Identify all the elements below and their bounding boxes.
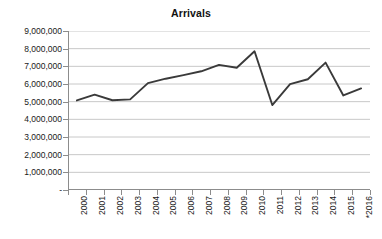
x-axis-tick-label: 2009	[240, 196, 249, 215]
x-axis-tick-label: 2008	[223, 196, 232, 215]
x-axis-tick	[139, 190, 140, 195]
y-axis-tick-label: 9,000,000	[0, 27, 62, 36]
x-axis-tick-label-text: *2016	[365, 196, 374, 218]
x-axis-tick-label-text: 2005	[169, 196, 178, 215]
x-axis-tick	[192, 190, 193, 195]
x-axis-tick	[263, 190, 264, 195]
x-axis-tick	[352, 190, 353, 195]
y-axis-tick-label: 6,000,000	[0, 80, 62, 89]
plot-svg	[68, 31, 370, 190]
y-axis-tick-label: 3,000,000	[0, 133, 62, 142]
x-axis-tick-label: 2011	[276, 196, 285, 214]
x-axis-tick-labels: 2000200120022003200420052006200720082009…	[68, 196, 370, 239]
y-axis-tick-label: 5,000,000	[0, 97, 62, 106]
x-axis-tick-label: 2007	[205, 196, 214, 215]
x-axis-tick-label: 2004	[152, 196, 161, 215]
arrivals-data-line	[77, 51, 361, 105]
x-axis-tick-label-text: 2004	[152, 196, 161, 215]
x-axis-tick-label-text: 2002	[116, 196, 125, 215]
x-axis-tick-label-text: 2007	[205, 196, 214, 215]
y-axis-tick-label: -	[0, 186, 62, 195]
x-axis-tick-label-text: 2013	[311, 196, 320, 215]
x-axis-tick	[86, 190, 87, 195]
x-axis-tick-label-text: 2006	[187, 196, 196, 215]
y-axis-tick-label: 1,000,000	[0, 168, 62, 177]
y-axis-tick-label: 4,000,000	[0, 115, 62, 124]
x-axis-tick-label-text: 2015	[347, 196, 356, 215]
x-axis-tick-label: 2006	[187, 196, 196, 215]
x-axis-tick-label: 2005	[169, 196, 178, 215]
x-axis-tick-label: 2001	[98, 196, 107, 215]
x-axis-tick-label: 2014	[329, 196, 338, 215]
x-axis-tick-label-text: 2000	[80, 196, 89, 215]
x-axis-tick-label-text: 2011	[276, 196, 285, 214]
x-axis-tick	[281, 190, 282, 195]
x-axis-tick-label-text: 2003	[134, 196, 143, 215]
y-axis-tick-label: 7,000,000	[0, 62, 62, 71]
x-axis-tick	[370, 190, 371, 195]
x-axis-tick-label-text: 2008	[223, 196, 232, 215]
x-axis-tick-label: 2010	[258, 196, 267, 215]
x-axis-tick-label-text: 2012	[294, 196, 303, 215]
x-axis-tick	[334, 190, 335, 195]
x-axis-tick	[68, 190, 69, 195]
y-axis-tick-label: 2,000,000	[0, 150, 62, 159]
x-axis-tick-label: 2013	[311, 196, 320, 215]
x-axis-tick	[175, 190, 176, 195]
x-axis-tick	[157, 190, 158, 195]
x-axis-tick	[299, 190, 300, 195]
x-axis-tick-label: 2002	[116, 196, 125, 215]
chart-title: Arrivals	[0, 7, 382, 19]
x-axis-tick-marks	[68, 190, 370, 195]
x-axis-tick-label: 2003	[134, 196, 143, 215]
y-axis-tick-labels: 9,000,0008,000,0007,000,0006,000,0005,00…	[0, 31, 62, 190]
x-axis-tick	[121, 190, 122, 195]
plot-area	[68, 31, 370, 190]
gridlines	[68, 31, 370, 172]
arrivals-line-chart: Arrivals 9,000,0008,000,0007,000,0006,00…	[0, 0, 382, 239]
x-axis-tick	[317, 190, 318, 195]
x-axis-tick	[104, 190, 105, 195]
y-axis-tick-label: 8,000,000	[0, 44, 62, 53]
x-axis-tick-label: 2000	[80, 196, 89, 215]
x-axis-tick-label: *2016	[365, 196, 374, 218]
x-axis-tick-label: 2012	[294, 196, 303, 215]
x-axis-tick-label: 2015	[347, 196, 356, 215]
x-axis-tick	[228, 190, 229, 195]
x-axis-tick-label-text: 2014	[329, 196, 338, 215]
x-axis-tick	[246, 190, 247, 195]
x-axis-tick-label-text: 2001	[98, 196, 107, 215]
x-axis-tick-label-text: 2009	[240, 196, 249, 215]
x-axis-tick-label-text: 2010	[258, 196, 267, 215]
x-axis-tick	[210, 190, 211, 195]
